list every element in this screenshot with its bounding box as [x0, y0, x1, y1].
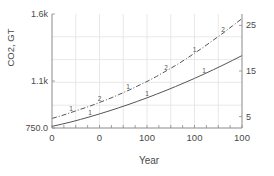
- svg-text:1: 1: [69, 105, 73, 112]
- x-ticklabel: 100: [139, 132, 155, 143]
- x-ticklabel: 0: [49, 132, 54, 143]
- gridlines: [52, 14, 242, 128]
- x-ticklabel: 100: [187, 132, 203, 143]
- y-ticklabel-right: 5: [242, 112, 251, 122]
- svg-text:1: 1: [202, 67, 206, 74]
- svg-text:2: 2: [98, 95, 102, 102]
- plot-area: 121212111 750.01.1k1.6k 51525 0010010010…: [52, 14, 242, 128]
- chart-container: CO2, GT Year 121212111 750.01.1k1.6k 515…: [0, 0, 274, 176]
- y-ticklabel-left: 1.6k: [31, 9, 52, 19]
- y-ticklabel-left: 1.1k: [31, 76, 52, 86]
- plot-svg: 121212111: [52, 14, 242, 128]
- y-ticklabel-left: 750.0: [25, 123, 52, 133]
- x-ticklabel: 0: [97, 132, 102, 143]
- x-axis-label: Year: [44, 155, 254, 166]
- svg-text:1: 1: [88, 109, 92, 116]
- y-ticklabel-right: 15: [242, 66, 256, 76]
- svg-text:1: 1: [126, 83, 130, 90]
- svg-text:1: 1: [193, 46, 197, 53]
- x-ticklabel: 100: [234, 132, 250, 143]
- svg-text:2: 2: [164, 64, 168, 71]
- svg-text:2: 2: [221, 26, 225, 33]
- svg-text:1: 1: [145, 90, 149, 97]
- y-axis-label-left: CO2, GT: [5, 18, 16, 78]
- y-ticklabel-right: 25: [242, 20, 256, 30]
